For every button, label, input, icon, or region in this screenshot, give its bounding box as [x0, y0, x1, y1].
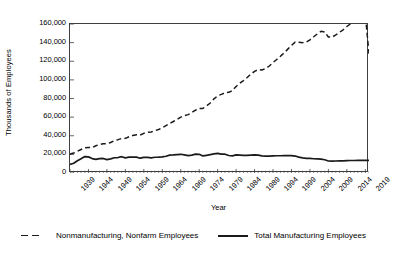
- x-tick-label: 1959: [153, 175, 171, 193]
- legend-entry[interactable]: Nonmanufacturing, Nonfarm Employees: [20, 231, 198, 241]
- x-tick-label: 1964: [171, 175, 189, 193]
- x-tick-label: 1954: [134, 175, 152, 193]
- series-line: [70, 24, 369, 154]
- x-tick-label: 1989: [263, 175, 281, 193]
- x-tick-label: 2009: [337, 175, 355, 193]
- x-axis-title: Year: [69, 203, 368, 213]
- plot-svg: [70, 24, 369, 173]
- x-tick-label: 1994: [282, 175, 300, 193]
- y-tick-label: 60,000: [0, 112, 66, 120]
- chart-legend: Nonmanufacturing, Nonfarm EmployeesTotal…: [20, 228, 380, 244]
- legend-label: Total Manufacturing Employees: [254, 231, 366, 241]
- x-tick-label: 1944: [97, 175, 115, 193]
- legend-label: Nonmanufacturing, Nonfarm Employees: [56, 231, 198, 241]
- x-tick-label: 1984: [245, 175, 263, 193]
- y-tick-label: 140,000: [0, 38, 66, 46]
- y-tick-label: 40,000: [0, 131, 66, 139]
- dashed-line-icon: [20, 231, 50, 241]
- y-tick-label: 100,000: [0, 75, 66, 83]
- x-tick-label: 1939: [79, 175, 97, 193]
- y-tick-label: 120,000: [0, 56, 66, 64]
- x-tick-label: 1979: [226, 175, 244, 193]
- x-tick-label: 2004: [319, 175, 337, 193]
- x-tick-label: 1949: [116, 175, 134, 193]
- x-tick-label: 2014: [356, 175, 374, 193]
- y-tick-label: 20,000: [0, 149, 66, 157]
- solid-line-icon: [218, 231, 248, 241]
- x-tick-label: 1974: [208, 175, 226, 193]
- y-tick-label: 0: [0, 168, 66, 176]
- x-tick-label: 1969: [190, 175, 208, 193]
- plot-area: [69, 23, 368, 172]
- y-tick-label: 80,000: [0, 94, 66, 102]
- x-tick-label: 2019: [374, 175, 392, 193]
- legend-entry[interactable]: Total Manufacturing Employees: [218, 231, 366, 241]
- x-tick-label: 1999: [300, 175, 318, 193]
- series-line: [70, 153, 369, 164]
- y-tick-label: 160,000: [0, 19, 66, 27]
- chart-figure: Thousands of Employees 020,00040,00060,0…: [0, 0, 400, 255]
